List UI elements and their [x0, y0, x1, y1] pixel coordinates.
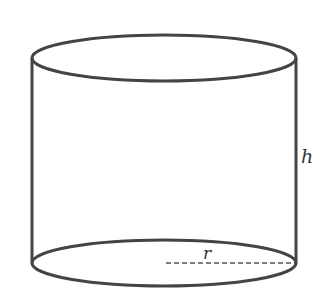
top-ellipse: [32, 35, 296, 81]
cylinder-figure: r h: [0, 0, 330, 306]
height-label: h: [301, 145, 313, 167]
cylinder-diagram: r h: [0, 0, 330, 306]
radius-label: r: [203, 243, 212, 263]
